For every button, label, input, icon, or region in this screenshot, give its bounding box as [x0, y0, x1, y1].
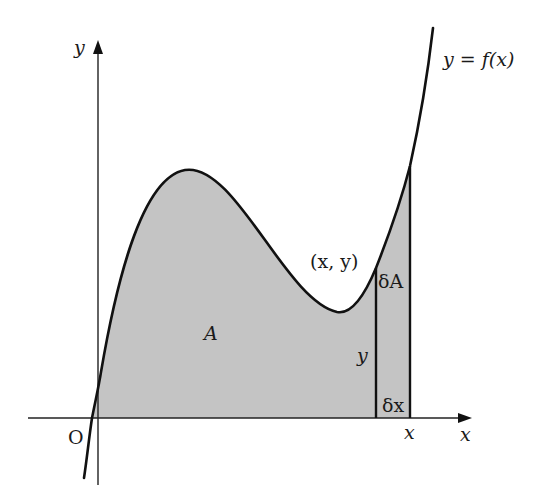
curve-equation-label: y = f(x) — [443, 50, 514, 69]
area-a-region — [92, 170, 376, 418]
x-axis-arrow-icon — [458, 413, 472, 423]
area-under-curve-diagram: y y = f(x) (x, y) δA A y δx x x O — [0, 0, 540, 500]
strip-width-label: δx — [382, 396, 404, 415]
y-axis-label: y — [74, 38, 85, 57]
point-label: (x, y) — [310, 252, 358, 271]
strip-delta-a-region — [376, 166, 410, 418]
curve-label-text: y = f(x) — [443, 48, 514, 70]
strip-area-label: δA — [378, 272, 403, 291]
strip-height-label: y — [357, 346, 368, 365]
y-axis-arrow-icon — [93, 40, 103, 54]
origin-label: O — [68, 428, 84, 447]
area-label: A — [204, 324, 218, 343]
strip-position-label: x — [404, 423, 415, 442]
diagram-canvas — [0, 0, 540, 500]
x-axis-label: x — [460, 425, 471, 444]
